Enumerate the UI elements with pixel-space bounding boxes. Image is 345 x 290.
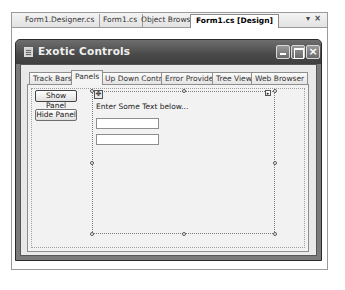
maximize-button[interactable] bbox=[291, 45, 305, 59]
form-window: Exotic Controls × Track Bars Panels Up D… bbox=[15, 39, 322, 261]
panel-instruction-label: Enter Some Text below... bbox=[96, 102, 188, 111]
resize-handle-sw[interactable] bbox=[90, 232, 94, 236]
move-handle-icon[interactable]: ✥ bbox=[94, 90, 103, 99]
text-input-1[interactable] bbox=[96, 118, 159, 129]
resize-handle-se[interactable] bbox=[273, 232, 277, 236]
show-panel-button[interactable]: Show Panel bbox=[35, 90, 77, 102]
doc-tab-form1-design[interactable]: Form1.cs [Design] bbox=[190, 14, 279, 28]
form-client-area: Track Bars Panels Up Down Controls Error… bbox=[20, 64, 317, 256]
tab-page-panels: Show Panel Hide Panel ✥ ▸ Enter Some Tex… bbox=[27, 84, 309, 252]
smart-tag-icon[interactable]: ▸ bbox=[265, 90, 271, 96]
tab-web-browser[interactable]: Web Browser bbox=[251, 72, 308, 84]
document-tab-bar: Form1.Designer.cs Form1.cs Object Browse… bbox=[12, 13, 327, 28]
resize-handle-ne[interactable] bbox=[273, 89, 277, 93]
chevron-down-icon[interactable]: ▾ bbox=[306, 14, 310, 23]
tab-panels[interactable]: Panels bbox=[71, 70, 103, 85]
resize-handle-s[interactable] bbox=[182, 232, 186, 236]
tab-track-bars[interactable]: Track Bars bbox=[29, 72, 76, 84]
close-button[interactable]: × bbox=[306, 45, 320, 59]
tab-control: Track Bars Panels Up Down Controls Error… bbox=[27, 70, 309, 252]
hide-panel-button[interactable]: Hide Panel bbox=[35, 109, 77, 121]
form-title-bar[interactable]: Exotic Controls × bbox=[16, 40, 321, 64]
resize-handle-w[interactable] bbox=[90, 161, 94, 165]
panel-container[interactable]: ✥ ▸ Enter Some Text below... bbox=[92, 91, 275, 234]
doc-tab-form1-designer[interactable]: Form1.Designer.cs bbox=[20, 14, 100, 27]
tab-tree-view[interactable]: Tree View bbox=[212, 72, 256, 84]
minimize-button[interactable] bbox=[276, 45, 290, 59]
resize-handle-e[interactable] bbox=[273, 161, 277, 165]
resize-handle-n[interactable] bbox=[182, 89, 186, 93]
text-input-2[interactable] bbox=[96, 134, 159, 145]
form-title: Exotic Controls bbox=[38, 45, 130, 57]
close-icon[interactable]: × bbox=[314, 14, 321, 23]
form-app-icon bbox=[24, 47, 33, 57]
resize-handle-nw[interactable] bbox=[90, 89, 94, 93]
